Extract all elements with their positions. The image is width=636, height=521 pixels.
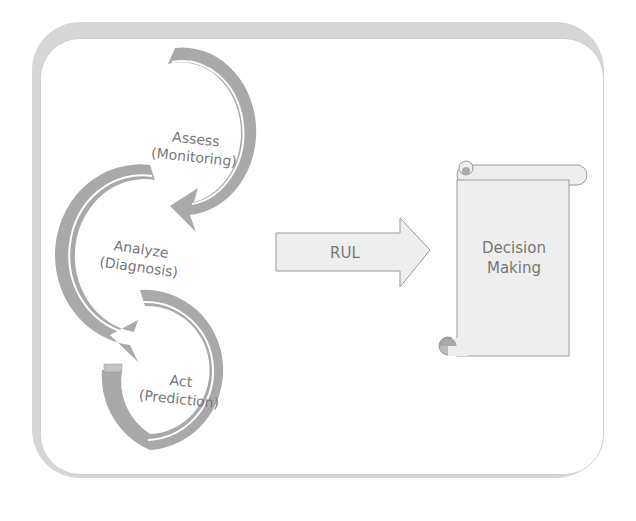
rul-label: RUL (310, 244, 380, 262)
decision-line1: Decision (462, 238, 566, 258)
decision-making-label: Decision Making (462, 238, 566, 278)
decision-line2: Making (462, 258, 566, 278)
